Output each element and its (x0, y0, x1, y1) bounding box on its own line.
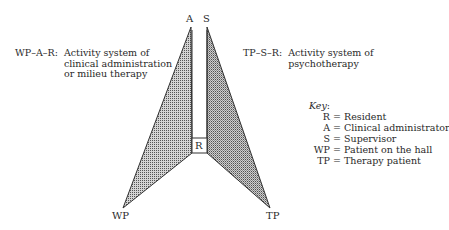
vertex-label-a: A (186, 13, 193, 24)
annotation-code: TP–S–R: (243, 48, 282, 59)
key-definition: Clinical administrator (344, 122, 449, 133)
annotation-code: WP–A–R: (15, 48, 58, 59)
key-item: S = Supervisor (306, 133, 449, 144)
annotation-tp-s-r: TP–S–R: Activity system of psychotherapy (243, 48, 374, 69)
key-abbr: R (306, 111, 330, 122)
key-abbr: S (306, 133, 330, 144)
key-title: Key: (309, 100, 449, 111)
vertex-label-wp: WP (112, 210, 129, 221)
key-item: TP = Therapy patient (306, 155, 449, 166)
key-definition: Resident (344, 111, 386, 122)
key-legend: Key: R = Resident A = Clinical administr… (306, 100, 449, 166)
key-definition: Therapy patient (344, 155, 421, 166)
key-abbr: A (306, 122, 330, 133)
key-abbr: WP (306, 144, 330, 155)
annotation-line: Activity system of (288, 48, 373, 59)
key-item: A = Clinical administrator (306, 122, 449, 133)
annotation-line: or milieu therapy (64, 69, 172, 80)
annotation-wp-a-r: WP–A–R: Activity system of clinical admi… (15, 48, 172, 80)
vertex-label-tp: TP (266, 210, 279, 221)
key-definition: Patient on the hall (344, 144, 432, 155)
key-title-text: Key (309, 100, 327, 111)
annotation-line: Activity system of (64, 48, 172, 59)
vertex-label-r: R (195, 140, 203, 151)
annotation-line: psychotherapy (288, 59, 373, 70)
vertex-label-s: S (203, 13, 210, 24)
key-item: R = Resident (306, 111, 449, 122)
key-abbr: TP (306, 155, 330, 166)
key-definition: Supervisor (344, 133, 396, 144)
key-item: WP = Patient on the hall (306, 144, 449, 155)
